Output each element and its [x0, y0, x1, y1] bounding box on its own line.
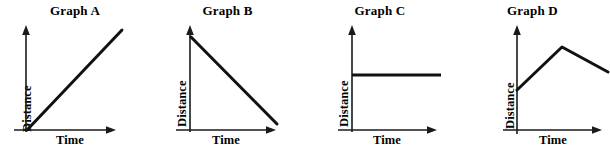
graph-b-plot	[150, 0, 305, 158]
graph-c-plot	[305, 0, 455, 158]
graph-a-x-axis-arrow-icon	[106, 126, 116, 134]
graph-d-x-axis-arrow-icon	[592, 126, 602, 134]
graph-a-y-axis-arrow-icon	[22, 25, 30, 35]
graphs-figure: Graph A Distance Time Graph B Distance T…	[0, 0, 610, 158]
graph-panel-d: Graph D Distance Time	[455, 0, 610, 158]
graph-c-y-axis-arrow-icon	[348, 25, 356, 35]
graph-panel-b: Graph B Distance Time	[150, 0, 305, 158]
graph-b-y-axis-arrow-icon	[186, 25, 194, 35]
graph-panel-a: Graph A Distance Time	[0, 0, 150, 158]
graph-d-data-line	[517, 47, 608, 90]
graph-a-plot	[0, 0, 150, 158]
graph-d-plot	[455, 0, 610, 158]
graph-a-data-line	[27, 30, 122, 130]
graph-b-data-line	[191, 37, 277, 124]
graph-b-x-axis-arrow-icon	[266, 126, 276, 134]
graph-d-y-axis-arrow-icon	[513, 25, 521, 35]
graph-panel-c: Graph C Distance Time	[305, 0, 455, 158]
graph-c-x-axis-arrow-icon	[427, 126, 437, 134]
